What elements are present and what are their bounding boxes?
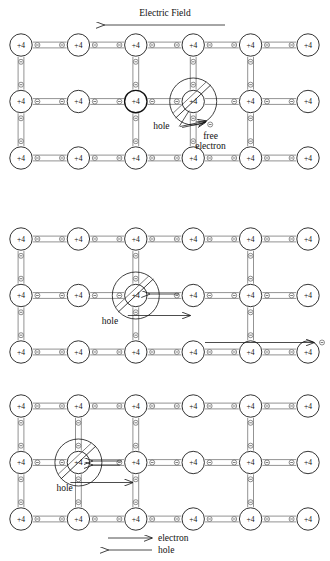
electron-icon [35, 293, 40, 298]
electron-icon [60, 156, 65, 161]
electron-icon [289, 293, 294, 298]
atom-core: +4 [239, 508, 261, 530]
electron-icon [19, 333, 24, 338]
atom-label: +4 [247, 41, 255, 50]
covalent-bond-horizontal [148, 42, 182, 48]
atom-label: +4 [247, 154, 255, 163]
electron-icon [35, 404, 40, 409]
electron-icon [35, 460, 40, 465]
covalent-bond-vertical [76, 418, 82, 451]
electron-icon [92, 517, 97, 522]
electron-icon [150, 237, 155, 242]
atom-core: +4 [10, 284, 32, 306]
atom-core: +4 [239, 395, 261, 417]
atom-label: +4 [189, 402, 197, 411]
electron-icon [174, 460, 179, 465]
covalent-bond-horizontal [33, 293, 67, 299]
atom-label: +4 [74, 97, 82, 106]
electron-icon [117, 43, 122, 48]
atom-label: +4 [304, 41, 312, 50]
electron-icon [320, 340, 325, 345]
electron-icon [289, 237, 294, 242]
electron-icon [191, 116, 196, 121]
electron-icon [92, 156, 97, 161]
atom-core: +4 [67, 228, 89, 250]
electron-icon [60, 43, 65, 48]
covalent-bond-vertical [18, 418, 24, 451]
atom-label: +4 [17, 291, 25, 300]
atom-label: +4 [17, 97, 25, 106]
atom-core: +4 [125, 90, 147, 112]
atom-core: +4 [239, 284, 261, 306]
covalent-bond-horizontal [262, 516, 296, 522]
covalent-bond-horizontal [262, 349, 296, 355]
covalent-bond-vertical [248, 307, 254, 340]
electron-icon [76, 443, 81, 448]
electron-icon [19, 477, 24, 482]
covalent-bond-vertical [133, 57, 139, 90]
electron-icon [35, 517, 40, 522]
electron-icon [207, 237, 212, 242]
atom-label: +4 [17, 402, 25, 411]
electron-icon [19, 310, 24, 315]
electron-icon [60, 350, 65, 355]
atom-label: +4 [189, 41, 197, 50]
electron-icon [19, 139, 24, 144]
atom-core: +4 [182, 451, 204, 473]
electron-icon [117, 99, 122, 104]
electron-icon [207, 460, 212, 465]
atom-core: +4 [297, 34, 319, 56]
electron-icon [232, 156, 237, 161]
covalent-bond-vertical [248, 474, 254, 507]
electron-icon [265, 43, 270, 48]
covalent-bond-horizontal [205, 349, 239, 355]
electron-icon [174, 517, 179, 522]
electron-icon [232, 517, 237, 522]
electron-icon [289, 404, 294, 409]
atom-core: +4 [67, 341, 89, 363]
electron-icon [60, 404, 65, 409]
atom-core: +4 [10, 147, 32, 169]
legend-electron-label: electron [158, 533, 189, 543]
covalent-bond-horizontal [33, 42, 67, 48]
covalent-bond-horizontal [90, 460, 124, 466]
covalent-bond-vertical [248, 113, 254, 146]
electron-icon [35, 237, 40, 242]
electron-icon [232, 350, 237, 355]
atom-label: +4 [304, 154, 312, 163]
electron-icon [92, 293, 97, 298]
covalent-bond-vertical [248, 57, 254, 90]
electron-icon [207, 156, 212, 161]
legend-hole-label: hole [158, 545, 174, 555]
covalent-bond-horizontal [148, 155, 182, 161]
electron-icon [248, 139, 253, 144]
atom-label: +4 [189, 235, 197, 244]
electron-icon [19, 420, 24, 425]
electron-icon [265, 517, 270, 522]
electron-icon [265, 293, 270, 298]
atom-core: +4 [10, 34, 32, 56]
atom-core: +4 [182, 395, 204, 417]
covalent-bond-vertical [133, 113, 139, 146]
atom-core: +4 [239, 34, 261, 56]
covalent-bond-horizontal [148, 236, 182, 242]
covalent-bond-vertical [133, 418, 139, 451]
electron-icon [248, 276, 253, 281]
atom-label: +4 [132, 458, 140, 467]
electron-icon [76, 420, 81, 425]
electron-icon [248, 310, 253, 315]
electron-icon [117, 156, 122, 161]
atom-core: +4 [10, 90, 32, 112]
electron-icon [265, 99, 270, 104]
covalent-bond-horizontal [262, 403, 296, 409]
atom-core: +4 [239, 451, 261, 473]
atom-label: +4 [74, 402, 82, 411]
covalent-bond-horizontal [33, 516, 67, 522]
electron-icon [76, 500, 81, 505]
electron-icon [133, 477, 138, 482]
covalent-bond-horizontal [33, 460, 67, 466]
covalent-bond-horizontal [90, 516, 124, 522]
atom-core: +4 [297, 451, 319, 473]
electron-icon [60, 460, 65, 465]
electron-icon [289, 99, 294, 104]
